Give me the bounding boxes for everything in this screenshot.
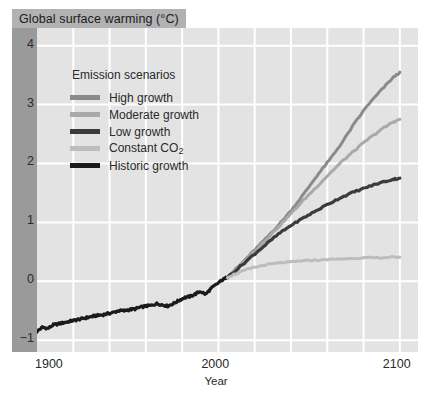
series-line-high-growth bbox=[228, 72, 400, 278]
legend-item: High growth bbox=[70, 89, 199, 106]
legend-item: Low growth bbox=[70, 123, 199, 140]
page-title: Global surface warming (°C) bbox=[19, 12, 179, 26]
x-axis-title: Year bbox=[204, 375, 227, 387]
legend-item-label: Historic growth bbox=[109, 159, 188, 173]
legend-item-label: Low growth bbox=[109, 125, 170, 139]
y-tick-label: 4 bbox=[12, 37, 34, 51]
legend-item: Constant CO2 bbox=[70, 140, 199, 157]
left-color-band bbox=[12, 28, 37, 352]
series-line-constant-co2 bbox=[228, 257, 400, 278]
x-tick-label: 2000 bbox=[201, 357, 229, 371]
legend-item: Moderate growth bbox=[70, 106, 199, 123]
legend: Emission scenarios High growthModerate g… bbox=[70, 68, 199, 174]
legend-item-label: Constant CO2 bbox=[109, 141, 183, 156]
legend-item: Historic growth bbox=[70, 157, 199, 174]
legend-item-label: High growth bbox=[109, 91, 173, 105]
y-tick-label: 1 bbox=[12, 213, 34, 227]
chart-figure: Global surface warming (°C) 43210−1 1900… bbox=[0, 0, 440, 402]
series-line-historic-growth bbox=[37, 277, 228, 332]
x-tick-label: 2100 bbox=[383, 357, 411, 371]
legend-swatch bbox=[70, 129, 100, 134]
series-line-low-growth bbox=[228, 178, 400, 277]
legend-title: Emission scenarios bbox=[72, 68, 199, 82]
legend-swatch bbox=[70, 146, 100, 151]
chart-title-chip: Global surface warming (°C) bbox=[12, 9, 186, 28]
x-tick-label: 1900 bbox=[35, 357, 63, 371]
legend-label-subscript: 2 bbox=[178, 146, 183, 156]
y-tick-label: 2 bbox=[12, 154, 34, 168]
y-tick-label: 3 bbox=[12, 96, 34, 110]
y-tick-label: 0 bbox=[12, 272, 34, 286]
legend-swatch bbox=[70, 112, 100, 117]
legend-swatch bbox=[70, 163, 100, 168]
legend-item-label: Moderate growth bbox=[109, 108, 199, 122]
y-tick-label: −1 bbox=[12, 331, 34, 345]
legend-swatch bbox=[70, 95, 100, 100]
